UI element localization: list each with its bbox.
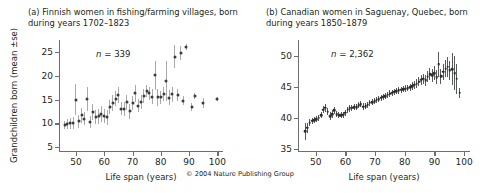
- data-point: [117, 93, 120, 96]
- data-point: [128, 110, 131, 113]
- x-tick: [375, 152, 376, 156]
- panel-b-plot-area: 354045505060708090100: [298, 40, 470, 152]
- data-point: [438, 63, 441, 66]
- panel-a-x-axis: [59, 151, 223, 152]
- data-point: [137, 104, 140, 107]
- x-tick-label: 50: [310, 157, 321, 167]
- n-equals: =: [336, 49, 349, 59]
- x-tick: [161, 152, 162, 156]
- data-point: [74, 98, 77, 101]
- data-point: [72, 121, 75, 124]
- y-tick-label: 10: [42, 118, 53, 128]
- data-point: [125, 101, 128, 104]
- y-tick: [55, 76, 59, 77]
- data-point: [171, 93, 174, 96]
- x-tick: [316, 152, 317, 156]
- data-point: [168, 96, 171, 99]
- y-tick: [55, 100, 59, 101]
- y-tick: [294, 118, 298, 119]
- x-tick-label: 70: [127, 157, 138, 167]
- data-point: [159, 96, 162, 99]
- data-point: [123, 108, 126, 111]
- panel-a-plot-area: 5101520255060708090100: [59, 40, 223, 152]
- panel-a-title: (a) Finnish women in fishing/farming vil…: [28, 7, 243, 30]
- y-tick-label: 35: [281, 144, 292, 154]
- data-point: [176, 94, 179, 97]
- data-point: [83, 117, 86, 120]
- data-point: [80, 114, 83, 117]
- x-tick-label: 100: [455, 157, 472, 167]
- data-point: [89, 120, 92, 123]
- data-point: [111, 101, 114, 104]
- data-point: [193, 94, 196, 97]
- y-tick: [55, 147, 59, 148]
- data-point: [106, 116, 109, 119]
- y-tick: [55, 123, 59, 124]
- y-tick-label: 5: [47, 142, 53, 152]
- panel-b: (b) Canadian women in Saguenay, Quebec, …: [246, 0, 491, 193]
- figure-grandchildren-vs-lifespan: (a) Finnish women in fishing/farming vil…: [0, 0, 491, 193]
- x-tick: [434, 152, 435, 156]
- copyright-notice: © 2004 Nature Publishing Group: [186, 170, 294, 178]
- data-point: [108, 105, 111, 108]
- x-tick-label: 50: [70, 157, 81, 167]
- data-point: [165, 80, 168, 83]
- data-point: [114, 97, 117, 100]
- panel-b-y-axis: [298, 40, 299, 152]
- x-tick-label: 90: [429, 157, 440, 167]
- data-point: [86, 98, 89, 101]
- data-point: [182, 99, 185, 102]
- data-point: [151, 95, 154, 98]
- data-point: [320, 114, 323, 117]
- data-point: [77, 120, 80, 123]
- data-point: [134, 92, 137, 95]
- x-tick: [405, 152, 406, 156]
- y-tick-label: 25: [42, 47, 53, 57]
- y-tick-label: 40: [281, 113, 292, 123]
- data-point: [216, 98, 219, 101]
- panel-b-sample-size-annotation: n = 2,362: [331, 49, 374, 59]
- y-tick-label: 15: [42, 95, 53, 105]
- x-tick-label: 80: [399, 157, 410, 167]
- x-tick: [133, 152, 134, 156]
- data-point: [202, 101, 205, 104]
- data-point: [91, 110, 94, 113]
- panel-b-title: (b) Canadian women in Saguenay, Quebec, …: [266, 7, 481, 30]
- x-tick-label: 80: [155, 157, 166, 167]
- panel-a-x-axis-label: Life span (years): [105, 172, 176, 182]
- x-tick: [345, 152, 346, 156]
- y-tick: [294, 149, 298, 150]
- x-tick-label: 70: [369, 157, 380, 167]
- data-point: [142, 94, 145, 97]
- y-tick-label: 45: [281, 82, 292, 92]
- data-point: [455, 77, 458, 80]
- data-point: [179, 51, 182, 54]
- data-point: [185, 46, 188, 49]
- panel-b-x-axis: [298, 151, 470, 152]
- x-tick: [464, 152, 465, 156]
- data-point: [458, 92, 461, 95]
- y-tick: [294, 87, 298, 88]
- y-tick: [55, 52, 59, 53]
- panel-b-x-axis-label: Life span (years): [348, 172, 419, 182]
- panel-a-y-axis-label: Grandchildren born (mean ±se): [9, 28, 19, 163]
- y-tick: [294, 56, 298, 57]
- x-tick-label: 90: [183, 157, 194, 167]
- y-tick-label: 50: [281, 51, 292, 61]
- data-point: [154, 74, 157, 77]
- x-tick: [217, 152, 218, 156]
- data-point: [306, 126, 309, 129]
- panel-a-y-axis: [59, 40, 60, 152]
- x-tick-label: 60: [99, 157, 110, 167]
- data-point: [97, 115, 100, 118]
- data-point: [173, 55, 176, 58]
- x-tick: [104, 152, 105, 156]
- x-tick: [189, 152, 190, 156]
- x-tick: [76, 152, 77, 156]
- data-point: [162, 93, 165, 96]
- x-tick-label: 100: [209, 157, 226, 167]
- data-point: [148, 92, 151, 95]
- data-point: [190, 106, 193, 109]
- data-point: [131, 101, 134, 104]
- n-value: 2,362: [349, 49, 374, 59]
